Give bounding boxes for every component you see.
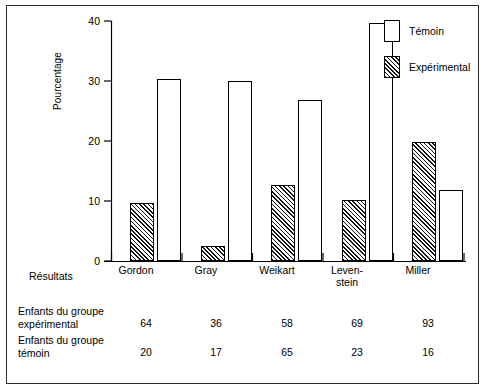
table-cell-tem-levenstein: 23 [337,346,377,358]
table-cell-exp-levenstein: 69 [337,317,377,329]
table-row-label-temoin: Enfants du groupe témoin [18,334,104,359]
table-cell-tem-gordon: 20 [126,346,166,358]
table-cell-tem-miller: 16 [408,346,448,358]
table-cell-exp-miller: 93 [408,317,448,329]
table-cell-exp-gordon: 64 [126,317,166,329]
table-cell-tem-gray: 17 [196,346,236,358]
table-cell-exp-gray: 36 [196,317,236,329]
table-cell-tem-weikart: 65 [267,346,307,358]
figure-container: Pourcentage 40 30 20 10 0 Gordon Gray We… [0,0,485,390]
x-axis-caption: Résultats [29,270,73,282]
table-cell-exp-weikart: 58 [267,317,307,329]
results-table: Résultats Enfants du groupe expérimental… [0,0,485,390]
table-row-label-experimental: Enfants du groupe expérimental [18,305,104,330]
